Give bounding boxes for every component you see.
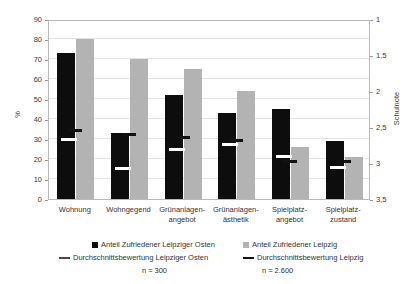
y-axis-right-tick-label: 1,5 (376, 52, 402, 60)
marker-durchschnitt-osten (330, 166, 346, 169)
bar-osten (57, 53, 75, 199)
marker-durchschnitt-osten (276, 155, 292, 158)
bar-leipzig (291, 147, 309, 199)
y-axis-left-tick-label: 30 (16, 136, 42, 144)
y-axis-right-tick-label: 2,5 (376, 124, 402, 132)
y-axis-right-tick-label: 3,5 (376, 196, 402, 204)
legend-item-durchschnitt-osten: Durchschnittsbewertung Leipziger Osten (59, 253, 208, 262)
x-axis-category-label: Spielplatz- zustand (316, 205, 370, 224)
marker-durchschnitt-osten (169, 148, 185, 151)
legend-label: Anteil Zufriedener Leipziger Osten (101, 240, 215, 249)
marker-durchschnitt-osten (115, 167, 131, 170)
gridline (49, 78, 369, 79)
x-axis-category-label: Grünanlagen- angebot (155, 205, 209, 224)
marker-durchschnitt-leipzig (337, 160, 351, 163)
y-axis-right-title: Schulnote (392, 92, 401, 125)
marker-durchschnitt-leipzig (68, 129, 82, 132)
y-axis-left-tick-label: 60 (16, 76, 42, 84)
marker-durchschnitt-osten (61, 138, 77, 141)
sample-size-note-leipzig: n ≈ 2.600 (262, 266, 293, 275)
bar-osten (218, 113, 236, 199)
y-axis-left-tick-label: 0 (16, 196, 42, 204)
legend-item-anteil-osten: Anteil Zufriedener Leipziger Osten (92, 240, 215, 249)
y-axis-left-tick-label: 70 (16, 56, 42, 64)
square-dark-icon (92, 242, 98, 248)
gridline (49, 98, 369, 99)
bar-leipzig (184, 69, 202, 199)
square-light-icon (243, 242, 249, 248)
legend-label: Durchschnittsbewertung Leipziger Osten (73, 253, 208, 262)
y-axis-right-tickmark (370, 164, 373, 165)
y-axis-left-tick-label: 90 (16, 16, 42, 24)
bar-leipzig (130, 59, 148, 199)
y-axis-left-tick-label: 80 (16, 36, 42, 44)
x-axis-category-label: Spielplatz- angebot (263, 205, 317, 224)
gridline (49, 58, 369, 59)
chart-container: % Schulnote 0102030405060708090 11,522,5… (0, 0, 418, 284)
legend-item-durchschnitt-leipzig: Durchschnittsbewertung Leipzig (243, 253, 363, 262)
y-axis-right-tickmark (370, 92, 373, 93)
plot-area (48, 20, 370, 200)
y-axis-left-tick-label: 50 (16, 96, 42, 104)
bar-osten (111, 133, 129, 199)
y-axis-left-tick-label: 20 (16, 156, 42, 164)
y-axis-left-tickmark (45, 200, 48, 201)
marker-durchschnitt-leipzig (122, 133, 136, 136)
y-axis-left-tick-label: 40 (16, 116, 42, 124)
bar-leipzig (76, 39, 94, 199)
legend-label: Durchschnittsbewertung Leipzig (257, 253, 363, 262)
legend-item-anteil-leipzig: Anteil Zufriedener Leipzig (243, 240, 337, 249)
bar-osten (326, 141, 344, 199)
x-axis-category-label: Wohnung (48, 205, 102, 215)
gridline (49, 158, 369, 159)
marker-durchschnitt-leipzig (283, 160, 297, 163)
marker-durchschnitt-leipzig (176, 136, 190, 139)
gridline (49, 18, 369, 19)
bar-leipzig (237, 91, 255, 199)
gridline (49, 138, 369, 139)
y-axis-right-tick-label: 3 (376, 160, 402, 168)
marker-durchschnitt-leipzig (229, 139, 243, 142)
gridline (49, 118, 369, 119)
y-axis-right-tickmark (370, 20, 373, 21)
gridline (49, 38, 369, 39)
x-axis-category-label: Wohngegend (102, 205, 156, 215)
y-axis-right-tick-label: 1 (376, 16, 402, 24)
gridline (49, 178, 369, 179)
y-axis-right-tickmark (370, 200, 373, 201)
y-axis-right-tickmark (370, 128, 373, 129)
sample-size-note-osten: n ≈ 300 (142, 266, 167, 275)
gridline (49, 198, 369, 199)
y-axis-left-tick-label: 10 (16, 176, 42, 184)
marker-durchschnitt-osten (222, 143, 238, 146)
bar-leipzig (345, 157, 363, 199)
x-axis-category-label: Grünanlagen- ästhetik (209, 205, 263, 224)
y-axis-right-tickmark (370, 56, 373, 57)
y-axis-right-tick-label: 2 (376, 88, 402, 96)
legend-label: Anteil Zufriedener Leipzig (252, 240, 337, 249)
